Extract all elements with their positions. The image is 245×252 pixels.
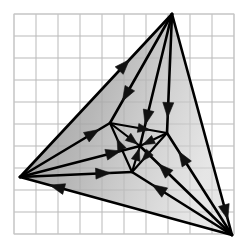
figure-container [0, 0, 245, 252]
triangulation-diagram [0, 0, 245, 252]
